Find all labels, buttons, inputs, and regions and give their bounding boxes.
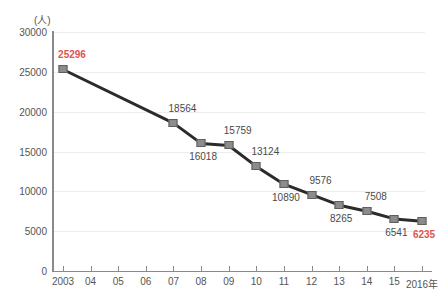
line-chart: (人) 050001000015000200002500030000 20030… <box>0 0 448 298</box>
data-point-marker[interactable] <box>224 141 233 149</box>
data-point-label: 10890 <box>272 192 300 203</box>
data-point-label: 9576 <box>309 175 331 186</box>
data-point-label: 6541 <box>385 227 407 238</box>
data-point-marker[interactable] <box>169 119 178 127</box>
data-point-marker[interactable] <box>252 162 261 170</box>
data-point-label: 8265 <box>330 213 352 224</box>
data-point-marker[interactable] <box>335 201 344 209</box>
data-point-label: 18564 <box>169 103 197 114</box>
data-point-marker[interactable] <box>362 207 371 215</box>
data-point-label: 13124 <box>251 146 279 157</box>
data-point-label: 6235 <box>413 229 435 240</box>
data-point-label: 15759 <box>224 125 252 136</box>
data-point-marker[interactable] <box>390 215 399 223</box>
data-point-label: 25296 <box>58 49 86 60</box>
data-point-marker[interactable] <box>197 139 206 147</box>
data-point-marker[interactable] <box>307 191 316 199</box>
data-point-label: 16018 <box>189 151 217 162</box>
data-point-label: 7508 <box>365 191 387 202</box>
data-point-marker[interactable] <box>418 217 427 225</box>
data-point-marker[interactable] <box>59 65 68 73</box>
data-point-marker[interactable] <box>279 180 288 188</box>
